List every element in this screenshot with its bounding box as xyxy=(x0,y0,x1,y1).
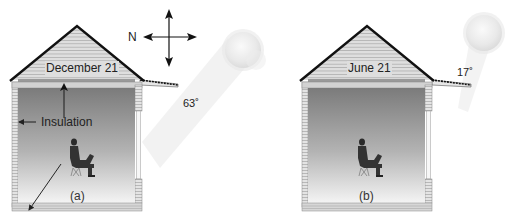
passive-solar-diagram: December 21 63˚ Insulation (a) N June 21… xyxy=(0,0,506,214)
attic-insulation-b xyxy=(308,79,425,82)
interior-a xyxy=(18,88,135,203)
wall-right-lower-a xyxy=(135,179,142,203)
wall-top-a xyxy=(12,82,142,88)
compass-icon xyxy=(143,9,197,67)
sun-angle-label-b: 17˚ xyxy=(457,66,473,78)
roof-overhang-a xyxy=(140,80,178,87)
date-label-june: June 21 xyxy=(347,61,392,75)
north-label: N xyxy=(128,30,137,44)
caption-a: (a) xyxy=(70,189,85,203)
date-label-december: December 21 xyxy=(45,61,119,75)
attic-insulation-a xyxy=(18,79,135,82)
sun-angle-label-a: 63˚ xyxy=(183,97,199,109)
insulation-label: Insulation xyxy=(41,115,92,129)
sun-partial-b-left xyxy=(246,50,266,70)
diagram-canvas xyxy=(0,0,506,214)
wall-left-b xyxy=(302,82,308,207)
wall-left-a xyxy=(12,82,18,207)
panel-b xyxy=(246,12,505,211)
wall-right-lower-b xyxy=(425,179,432,203)
sun-icon-b xyxy=(463,12,505,54)
wall-right-upper-b xyxy=(425,85,432,111)
wall-right-upper-a xyxy=(135,85,142,111)
wall-top-b xyxy=(302,82,432,88)
window-b xyxy=(427,111,431,179)
caption-b: (b) xyxy=(359,189,374,203)
interior-b xyxy=(308,88,425,203)
window-a xyxy=(137,111,141,179)
floor-b xyxy=(302,203,432,211)
